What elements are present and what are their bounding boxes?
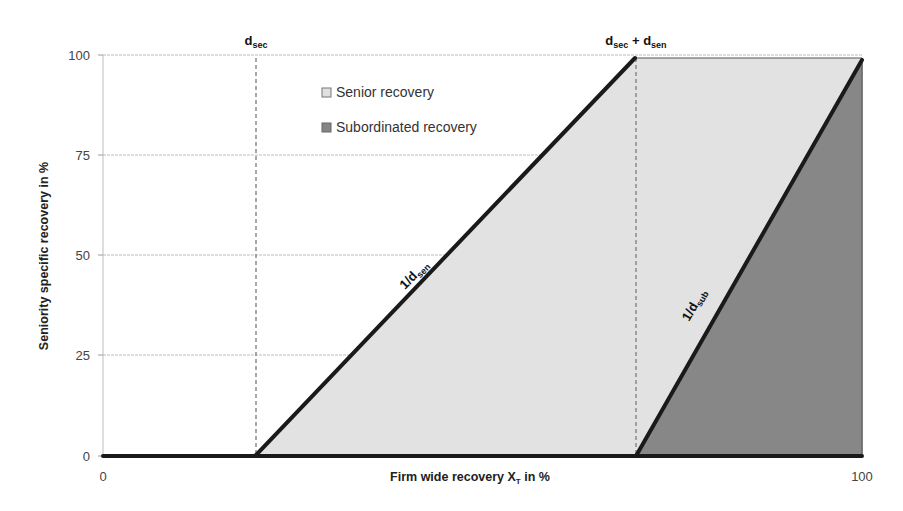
y-axis-title: Seniority specific recovery in % xyxy=(37,162,51,350)
y-tick-75: 75 xyxy=(76,148,90,163)
dsum-label: dsec + dsen xyxy=(605,33,666,50)
senior-swatch-icon xyxy=(322,88,331,97)
y-tick-0: 0 xyxy=(83,449,90,464)
x-tick-100: 100 xyxy=(851,469,873,484)
legend-item-subordinated: Subordinated recovery xyxy=(322,119,477,135)
y-tick-25: 25 xyxy=(76,348,90,363)
y-tick-marks xyxy=(98,55,103,456)
legend-item-senior: Senior recovery xyxy=(322,84,434,100)
dsec-label: dsec xyxy=(245,33,268,50)
legend-label-subordinated: Subordinated recovery xyxy=(336,119,477,135)
legend: Senior recovery Subordinated recovery xyxy=(322,84,477,135)
legend-label-senior: Senior recovery xyxy=(336,84,434,100)
y-tick-100: 100 xyxy=(68,48,90,63)
subordinated-swatch-icon xyxy=(322,123,331,132)
x-tick-0: 0 xyxy=(99,469,106,484)
x-axis-title: Firm wide recovery XT in % xyxy=(390,470,550,486)
chart: 100 75 50 25 0 0 100 Firm wide recovery … xyxy=(0,0,903,511)
y-tick-50: 50 xyxy=(76,248,90,263)
